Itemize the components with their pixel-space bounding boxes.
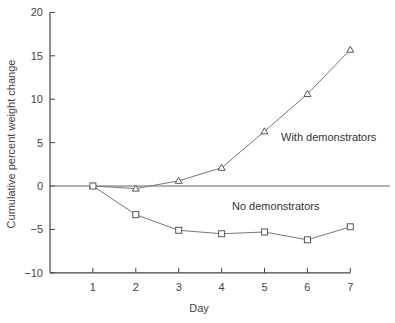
y-tick-label: −10	[24, 267, 43, 279]
series-with-demonstrators	[89, 46, 353, 191]
x-tick-label: 3	[176, 281, 182, 293]
series-group	[89, 46, 353, 243]
x-tick-label: 6	[304, 281, 310, 293]
axes: −10−5051015201234567	[24, 6, 353, 292]
y-tick-label: 10	[31, 93, 43, 105]
square-marker	[90, 183, 96, 189]
y-tick-label: 20	[31, 6, 43, 18]
x-tick-label: 7	[347, 281, 353, 293]
square-marker	[133, 212, 139, 218]
annotation-no-demonstrators: No demonstrators	[232, 200, 320, 212]
x-tick-label: 4	[219, 281, 225, 293]
series-no-demonstrators	[90, 183, 353, 243]
x-tick-label: 5	[261, 281, 267, 293]
line-chart: −10−5051015201234567 With demonstrators …	[0, 0, 395, 323]
x-tick-label: 1	[90, 281, 96, 293]
triangle-marker	[347, 46, 354, 52]
y-tick-label: −5	[30, 223, 43, 235]
x-tick-label: 2	[133, 281, 139, 293]
y-tick-label: 15	[31, 50, 43, 62]
square-marker	[219, 231, 225, 237]
annotation-with-demonstrators: With demonstrators	[281, 131, 377, 143]
y-tick-label: 0	[37, 180, 43, 192]
square-marker	[176, 227, 182, 233]
y-axis-title: Cumulative percent weight change	[5, 60, 17, 229]
x-axis-title: Day	[189, 302, 209, 314]
square-marker	[304, 237, 310, 243]
square-marker	[262, 229, 268, 235]
y-tick-label: 5	[37, 137, 43, 149]
square-marker	[347, 224, 353, 230]
